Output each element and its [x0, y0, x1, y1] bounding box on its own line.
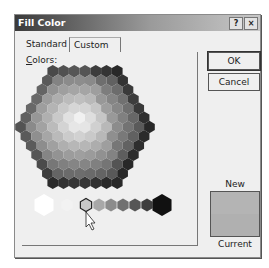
- cancel-button[interactable]: Cancel: [208, 73, 260, 91]
- new-color-swatch: [210, 191, 260, 215]
- gray-hex-cell[interactable]: [61, 199, 72, 212]
- current-color-swatch: [210, 214, 260, 237]
- gray-hex-selected[interactable]: [80, 199, 91, 212]
- gray-hex-cell[interactable]: [117, 199, 128, 212]
- gray-hex-large[interactable]: [34, 194, 53, 216]
- ok-button[interactable]: OK: [208, 52, 260, 70]
- gray-hex-cell[interactable]: [129, 199, 140, 212]
- fill-color-dialog: Fill Color ? × Standard Custom Colors: O…: [14, 14, 261, 258]
- gray-hex-cell[interactable]: [93, 199, 104, 212]
- new-color-label: New: [210, 179, 260, 189]
- gray-hex-cell[interactable]: [105, 199, 116, 212]
- current-color-label: Current: [210, 239, 260, 249]
- gray-hex-cell[interactable]: [141, 199, 152, 212]
- gray-hex-large[interactable]: [152, 194, 171, 216]
